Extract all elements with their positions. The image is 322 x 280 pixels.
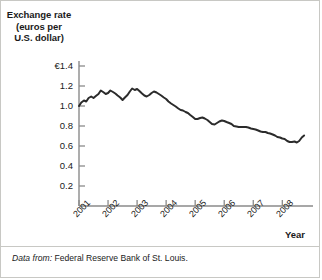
x-tick-label-2004: 2004 (158, 198, 179, 219)
x-tick-label-2005: 2005 (187, 198, 208, 219)
x-tick-label-2002: 2002 (100, 198, 121, 219)
x-tick-label-2007: 2007 (245, 198, 266, 219)
source-lead: Data from: (12, 253, 52, 263)
source-note: Data from: Federal Reserve Bank of St. L… (12, 253, 188, 263)
x-axis-title: Year (285, 229, 305, 240)
x-tick-label-2001: 2001 (71, 198, 92, 219)
x-tick-label-2006: 2006 (216, 198, 237, 219)
footer-divider (1, 246, 319, 247)
chart-figure: Exchange rate (euros per U.S. dollar) 0.… (0, 0, 320, 278)
source-text: Federal Reserve Bank of St. Louis. (55, 253, 188, 263)
x-tick-label-2003: 2003 (129, 198, 150, 219)
x-tick-label-2008: 2008 (274, 198, 295, 219)
x-axis-tick-labels: 20012002200320042005200620072008 (1, 1, 321, 279)
